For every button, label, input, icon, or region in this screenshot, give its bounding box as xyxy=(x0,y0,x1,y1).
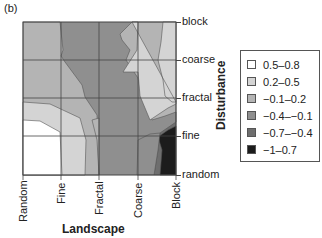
legend-label: 0.5–0.8 xyxy=(263,59,300,71)
contour-fills xyxy=(23,22,176,175)
legend-label: −0.7–−0.4 xyxy=(263,127,313,139)
y-tick-block: block xyxy=(182,16,208,27)
legend-item: −0.7–−0.4 xyxy=(247,127,313,138)
y-tick-fractal: fractal xyxy=(182,92,212,103)
legend-swatch xyxy=(247,60,256,69)
legend-label: −0.4–−0.1 xyxy=(263,110,313,122)
legend-label: −1–0.7 xyxy=(263,144,297,156)
x-tick-block: Block xyxy=(170,182,182,209)
x-tick-marks xyxy=(23,175,176,180)
legend-label: 0.2–0.5 xyxy=(263,76,300,88)
legend-swatch xyxy=(247,145,256,154)
legend: 0.5–0.8 0.2–0.5 −0.1–0.2 −0.4–−0.1 −0.7–… xyxy=(240,50,320,162)
legend-label: −0.1–0.2 xyxy=(263,93,306,105)
x-tick-coarse: Coarse xyxy=(132,183,144,218)
y-tick-fine: fine xyxy=(182,130,200,141)
x-tick-random: Random xyxy=(17,180,29,222)
y-tick-random: random xyxy=(182,169,219,180)
legend-item: 0.5–0.8 xyxy=(247,59,300,70)
x-tick-fine: Fine xyxy=(55,183,67,204)
legend-item: −0.4–−0.1 xyxy=(247,110,313,121)
legend-swatch xyxy=(247,94,256,103)
legend-item: −1–0.7 xyxy=(247,144,297,155)
y-axis-label: Disturbance xyxy=(214,61,228,130)
legend-swatch xyxy=(247,111,256,120)
legend-swatch xyxy=(247,77,256,86)
legend-item: 0.2–0.5 xyxy=(247,76,300,87)
x-axis-label: Landscape xyxy=(62,222,125,236)
legend-swatch xyxy=(247,128,256,137)
y-tick-coarse: coarse xyxy=(182,54,215,65)
x-tick-fractal: Fractal xyxy=(93,181,105,215)
legend-item: −0.1–0.2 xyxy=(247,93,306,104)
